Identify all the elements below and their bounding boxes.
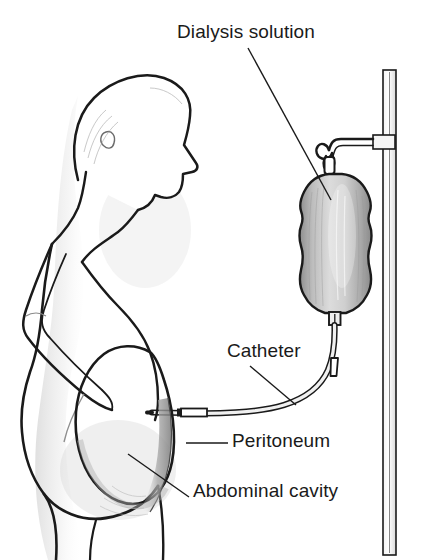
dialysis-solution-bag: [300, 174, 372, 325]
label-peritoneum: Peritoneum: [232, 431, 330, 450]
leader-catheter: [250, 366, 296, 405]
catheter-clamp: [331, 358, 339, 376]
patient-profile-figure: [21, 75, 197, 560]
peritoneal-dialysis-figure: Dialysis solution Catheter Peritoneum Ab…: [0, 0, 427, 560]
catheter-connector: [177, 409, 207, 417]
iv-pole: [373, 70, 396, 555]
catheter-tube: [147, 325, 335, 413]
bag-hanger-hook: [316, 139, 373, 174]
label-dialysis-solution: Dialysis solution: [177, 22, 315, 41]
label-abdominal-cavity: Abdominal cavity: [193, 481, 338, 500]
illustration-canvas: [0, 0, 427, 560]
label-catheter: Catheter: [227, 341, 301, 360]
leader-dialysis-solution: [248, 48, 331, 200]
